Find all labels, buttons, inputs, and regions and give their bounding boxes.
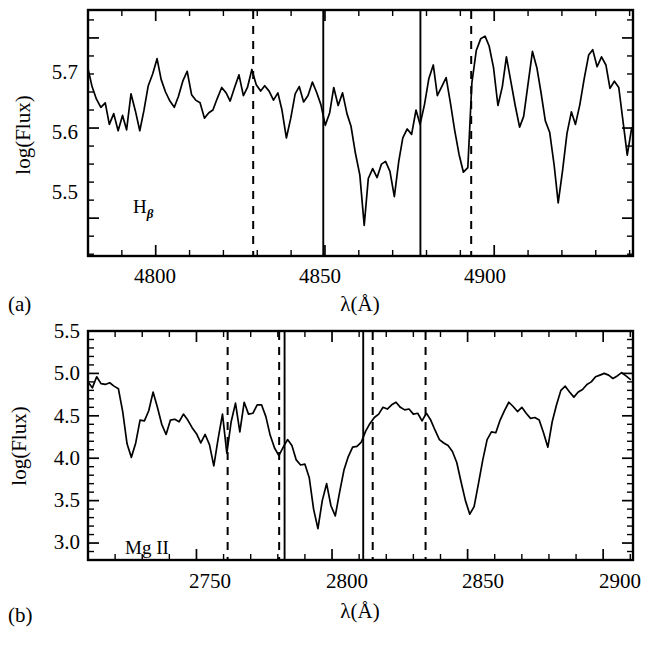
panel-a-xtick-4900: 4900: [464, 264, 506, 288]
panel-b-ytick-5.5: 5.5: [54, 319, 80, 343]
panel-a-xlabel: λ(Å): [340, 292, 379, 316]
panel-b-ytick-4.0: 4.0: [54, 446, 80, 470]
panel-a-plot-area: [88, 10, 633, 256]
figure-root: log(Flux) 5.7 5.6 5.5 4800 4850 4900 λ(Å…: [0, 0, 654, 656]
panel-b-xlabel: λ(Å): [340, 599, 379, 623]
panel-a: log(Flux) 5.7 5.6 5.5 4800 4850 4900 λ(Å…: [0, 0, 654, 316]
panel-b-plot-area: [88, 331, 633, 560]
plot-frame: [88, 10, 633, 256]
panel-b-ylabel: log(Flux): [7, 406, 31, 485]
panel-b-xtick-2750: 2750: [189, 569, 231, 593]
panel-b-annotation: Mg II: [125, 537, 169, 558]
panel-b-xtick-2900: 2900: [599, 569, 641, 593]
spectrum-line: [88, 373, 630, 529]
panel-b-ytick-3.5: 3.5: [54, 488, 80, 512]
panel-a-annotation: Hβ: [133, 196, 154, 221]
panel-b-xtick-2850: 2850: [462, 569, 504, 593]
panel-a-xtick-4800: 4800: [134, 264, 176, 288]
panel-a-xtick-4850: 4850: [299, 264, 341, 288]
panel-b-ytick-5.0: 5.0: [54, 361, 80, 385]
panel-b-ytick-4.5: 4.5: [54, 404, 80, 428]
panel-b-ytick-3.0: 3.0: [54, 530, 80, 554]
panel-b-xtick-2800: 2800: [326, 569, 368, 593]
panel-a-ytick-5.7: 5.7: [52, 60, 78, 84]
panel-a-label: (a): [8, 292, 31, 316]
plot-frame: [88, 331, 633, 560]
panel-b-label: (b): [8, 603, 33, 627]
plot-frame-overlay: [88, 10, 633, 256]
panel-a-ylabel: log(Flux): [11, 95, 35, 174]
panel-b: log(Flux) 5.5 5.0 4.5 4.0 3.5 3.0 2750 2…: [0, 316, 654, 656]
spectrum-line: [88, 36, 632, 225]
panel-a-ytick-5.5: 5.5: [52, 180, 78, 204]
plot-frame-overlay: [88, 331, 633, 560]
panel-a-ytick-5.6: 5.6: [52, 120, 78, 144]
